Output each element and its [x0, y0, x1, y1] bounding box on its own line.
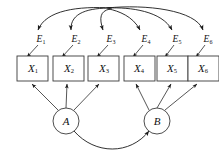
- error-label-group: E1 E2 E3 E4 E5 E6: [36, 34, 213, 45]
- error-label-E1: E1: [36, 34, 46, 45]
- top-arc-to-E3: [101, 9, 110, 30]
- observed-box-group: [17, 56, 219, 81]
- arrow-E5-to-X5: [165, 45, 174, 57]
- arrow-E3-to-X3: [97, 45, 108, 57]
- arrow-E1-to-X1: [27, 45, 38, 57]
- arrow-E2-to-X2: [62, 45, 73, 57]
- arrow-E4-to-X4: [133, 45, 143, 57]
- covariance-curve-A-B: [74, 131, 149, 149]
- latent-label-A: A: [62, 115, 70, 127]
- error-label-E4: E4: [141, 34, 151, 45]
- top-arc-to-E4: [109, 9, 140, 30]
- latent-circle-group: A B: [53, 108, 170, 134]
- error-label-E6: E6: [203, 34, 213, 45]
- error-label-E3: E3: [106, 34, 116, 45]
- path-diagram-canvas: E1 E2 E3 E4 E5 E6: [0, 0, 219, 160]
- arrow-A-to-X3: [74, 84, 99, 110]
- error-label-E2: E2: [71, 34, 81, 45]
- path-diagram-svg: E1 E2 E3 E4 E5 E6: [0, 0, 219, 160]
- loading-arrow-group: [32, 84, 197, 110]
- factor-covariance-group: [74, 131, 149, 149]
- error-to-box-arrow-group: [27, 45, 205, 57]
- arrow-B-to-X4: [136, 84, 149, 110]
- top-arc-to-E6: [107, 7, 203, 30]
- arrow-B-to-X6: [165, 84, 197, 110]
- arrow-A-to-X2: [66, 84, 67, 108]
- top-arc-group: [38, 7, 203, 30]
- arrow-B-to-X5: [157, 84, 171, 108]
- latent-label-B: B: [154, 115, 161, 127]
- arrow-A-to-X1: [32, 84, 58, 110]
- error-label-E5: E5: [172, 34, 182, 45]
- arrow-E6-to-X6: [196, 45, 205, 57]
